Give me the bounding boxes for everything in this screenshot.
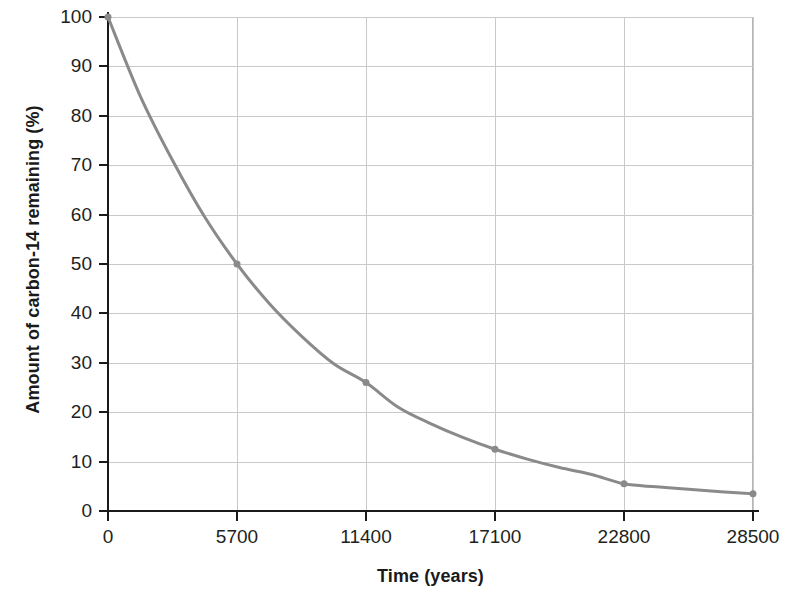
y-axis-title: Amount of carbon-14 remaining (%) [23, 50, 44, 470]
data-point-28500 [750, 490, 757, 497]
data-curve-layer [0, 0, 796, 606]
carbon14-decay-curve [108, 17, 753, 494]
data-point-0 [105, 14, 112, 21]
data-point-17100 [492, 446, 499, 453]
data-point-11400 [363, 379, 370, 386]
data-point-5700 [234, 261, 241, 268]
chart-container: 0102030405060708090100 05700114001710022… [0, 0, 796, 606]
data-point-22800 [621, 480, 628, 487]
x-axis-title: Time (years) [108, 566, 753, 587]
